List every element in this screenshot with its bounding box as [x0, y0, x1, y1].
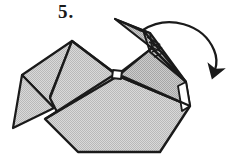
- center-knot: [112, 70, 122, 79]
- origami-figure-svg: [0, 0, 243, 159]
- origami-diagram: 5.: [0, 0, 243, 159]
- paper-model-group: [13, 19, 190, 152]
- step-number-label: 5.: [58, 2, 74, 21]
